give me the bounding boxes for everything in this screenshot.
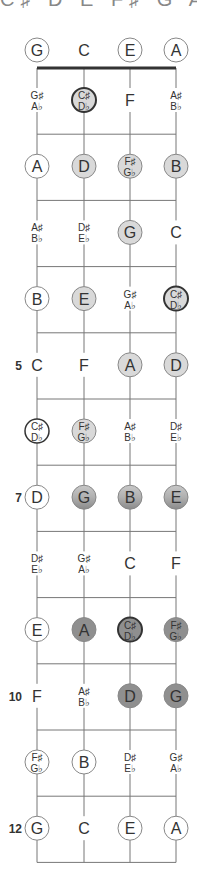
note-label-sharp: D♯ xyxy=(78,222,90,233)
note-label-sharp: F♯ xyxy=(124,156,135,167)
fret-number-label: 12 xyxy=(9,822,23,836)
note-label: A xyxy=(125,357,136,374)
note-label: F xyxy=(125,92,135,109)
note-label-flat: E♭ xyxy=(31,564,43,575)
note-label-flat: A♭ xyxy=(124,300,136,311)
note-label: D xyxy=(78,158,90,175)
note-label: A xyxy=(32,158,43,175)
note-label-flat: G♭ xyxy=(31,763,44,774)
note-label-sharp: G♯ xyxy=(31,90,44,101)
note-label: F xyxy=(32,688,42,705)
note-label-sharp: D♯ xyxy=(31,553,43,564)
note-label: D xyxy=(170,357,182,374)
note-label-flat: D♭ xyxy=(31,432,43,443)
note-label: F xyxy=(79,357,89,374)
note-label-sharp: C♯ xyxy=(31,421,43,432)
note-label-sharp: G♯ xyxy=(170,752,183,763)
note-label: A xyxy=(79,622,90,639)
note-label-flat: A♭ xyxy=(31,101,43,112)
note-label-flat: B♭ xyxy=(124,432,136,443)
note-label-sharp: C♯ xyxy=(124,620,136,631)
note-label-sharp: D♯ xyxy=(170,421,182,432)
note-label: D xyxy=(124,688,136,705)
note-label: B xyxy=(32,291,43,308)
note-label: A xyxy=(171,820,182,837)
note-label: B xyxy=(79,754,90,771)
note-label-sharp: G♯ xyxy=(78,553,91,564)
note-label-sharp: A♯ xyxy=(170,90,182,101)
note-label-flat: B♭ xyxy=(170,101,182,112)
note-label-flat: B♭ xyxy=(78,697,90,708)
fret-number-label: 7 xyxy=(15,491,22,505)
note-label: E xyxy=(125,820,136,837)
fret-number-label: 5 xyxy=(15,359,22,373)
note-label: G xyxy=(170,688,182,705)
note-label-flat: D♭ xyxy=(170,300,182,311)
note-label-sharp: D♯ xyxy=(124,752,136,763)
note-label: D xyxy=(31,489,43,506)
note-label-flat: G♭ xyxy=(124,167,137,178)
fret-number-label: 10 xyxy=(9,690,23,704)
note-label: E xyxy=(125,42,136,59)
note-label: C xyxy=(170,224,182,241)
fretboard-diagram: 571012GCEAG♯A♭C♯D♭FA♯B♭ADF♯G♭BA♯B♭D♯E♭GC… xyxy=(0,0,197,884)
note-label-flat: G♭ xyxy=(170,631,183,642)
note-label-sharp: F♯ xyxy=(31,752,42,763)
note-label: C xyxy=(78,820,90,837)
note-label-sharp: F♯ xyxy=(170,620,181,631)
note-label: G xyxy=(124,224,136,241)
note-label-sharp: C♯ xyxy=(78,90,90,101)
note-label-sharp: A♯ xyxy=(124,421,136,432)
note-label-flat: G♭ xyxy=(78,432,91,443)
note-label-flat: A♭ xyxy=(78,564,90,575)
note-label-sharp: G♯ xyxy=(124,289,137,300)
note-label-flat: D♭ xyxy=(124,631,136,642)
note-label: C xyxy=(78,42,90,59)
note-label: E xyxy=(32,622,43,639)
note-label: G xyxy=(31,820,43,837)
note-label: G xyxy=(78,489,90,506)
note-label: A xyxy=(171,42,182,59)
note-label: E xyxy=(171,489,182,506)
note-label-flat: E♭ xyxy=(170,432,182,443)
note-label: C xyxy=(124,555,136,572)
note-label: E xyxy=(79,291,90,308)
note-label-flat: D♭ xyxy=(78,101,90,112)
note-label-sharp: F♯ xyxy=(78,421,89,432)
note-label-sharp: A♯ xyxy=(78,686,90,697)
note-label-flat: E♭ xyxy=(78,233,90,244)
note-label-flat: E♭ xyxy=(124,763,136,774)
note-label: C xyxy=(31,357,43,374)
note-label-sharp: C♯ xyxy=(170,289,182,300)
note-label: B xyxy=(171,158,182,175)
note-label: B xyxy=(125,489,136,506)
note-label: F xyxy=(171,555,181,572)
note-label-sharp: A♯ xyxy=(31,222,43,233)
note-label-flat: B♭ xyxy=(31,233,43,244)
note-label-flat: A♭ xyxy=(170,763,182,774)
note-label: G xyxy=(31,42,43,59)
